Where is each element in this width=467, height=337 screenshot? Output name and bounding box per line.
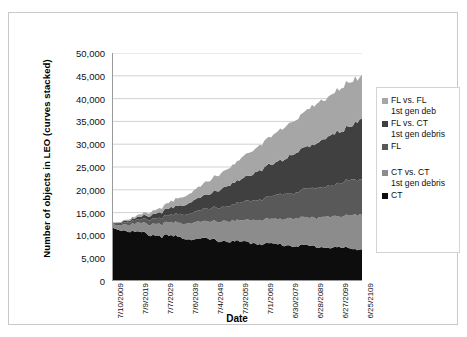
y-tick-label: 25,000: [76, 162, 105, 173]
legend-label: FL: [391, 141, 401, 152]
legend-swatch: [382, 170, 388, 176]
x-tick-label: 7/3/2059: [241, 283, 250, 314]
legend-swatch: [382, 144, 388, 150]
y-axis-tick-labels: 50,00045,00040,00035,00030,00025,00020,0…: [49, 53, 109, 281]
legend-item: CT vs. CT 1st gen debris: [382, 167, 455, 189]
legend-label: CT vs. CT 1st gen debris: [391, 167, 455, 189]
y-tick-label: 45,000: [76, 70, 105, 81]
stacked-area-chart: [112, 53, 362, 281]
x-tick-label: 7/1/2069: [266, 283, 275, 314]
x-tick-label: 7/4/2049: [216, 283, 225, 314]
x-tick-label: 7/7/2029: [166, 283, 175, 314]
x-tick-label: 7/6/2039: [191, 283, 200, 314]
legend-label: FL vs. CT 1st gen debris: [391, 118, 455, 140]
legend-swatch: [382, 121, 388, 127]
y-tick-label: 20,000: [76, 184, 105, 195]
legend-item: FL: [382, 141, 455, 152]
legend-swatch: [382, 193, 388, 199]
x-axis-title: Date: [112, 313, 362, 324]
legend-item: FL vs. CT 1st gen debris: [382, 118, 455, 140]
plot-area: [112, 53, 362, 281]
y-tick-label: 0: [100, 276, 105, 287]
legend-label: FL vs. FL 1st gen deb: [391, 95, 455, 117]
y-tick-label: 30,000: [76, 139, 105, 150]
y-tick-label: 15,000: [76, 207, 105, 218]
legend-label: CT: [391, 190, 402, 201]
figure-frame: Number of objects in LEO (curves stacked…: [8, 12, 458, 325]
y-tick-label: 35,000: [76, 116, 105, 127]
x-tick-label: 6/25/2109: [366, 283, 375, 319]
chart-legend: FL vs. FL 1st gen debFL vs. CT 1st gen d…: [376, 87, 460, 253]
x-tick-label: 7/9/2019: [141, 283, 150, 314]
chart-screenshot: Number of objects in LEO (curves stacked…: [0, 0, 467, 337]
legend-item: CT: [382, 190, 455, 201]
y-tick-label: 10,000: [76, 230, 105, 241]
legend-item: FL vs. FL 1st gen deb: [382, 95, 455, 117]
legend-item-empty: [382, 153, 455, 166]
y-tick-label: 5,000: [81, 253, 105, 264]
y-tick-label: 50,000: [76, 48, 105, 59]
x-axis-tick-labels: 7/10/20097/9/20197/7/20297/6/20397/4/204…: [112, 283, 362, 335]
y-tick-label: 40,000: [76, 93, 105, 104]
legend-swatch: [382, 98, 388, 104]
